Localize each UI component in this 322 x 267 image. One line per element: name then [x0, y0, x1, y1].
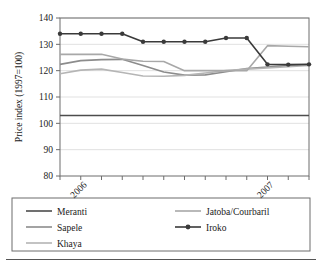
- legend-marker-iroko: [186, 225, 191, 230]
- y-axis-ticks: 8090100110120130140: [39, 13, 60, 181]
- legend-item-iroko[interactable]: Iroko: [175, 223, 227, 233]
- legend-item-meranti[interactable]: Meranti: [26, 207, 87, 217]
- data-point-marker: [79, 32, 83, 36]
- legend-item-sapele[interactable]: Sapele: [26, 223, 82, 233]
- y-tick-label: 100: [39, 119, 54, 129]
- y-tick-label: 110: [39, 92, 53, 102]
- data-point-marker: [99, 32, 103, 36]
- legend-label-sapele: Sapele: [57, 223, 82, 233]
- data-point-marker: [224, 36, 228, 40]
- y-tick-label: 140: [39, 13, 54, 23]
- y-tick-label: 80: [44, 171, 54, 181]
- y-tick-label: 130: [39, 40, 54, 50]
- series-iroko: [58, 32, 311, 67]
- x-tick-label: 2006: [68, 179, 89, 200]
- data-point-marker: [307, 62, 311, 66]
- legend-label-meranti: Meranti: [57, 207, 87, 217]
- x-axis-ticks: [60, 176, 309, 180]
- legend-label-iroko: Iroko: [206, 223, 227, 233]
- data-point-marker: [245, 36, 249, 40]
- footer-divider: [6, 259, 316, 260]
- legend-item-khaya[interactable]: Khaya: [26, 239, 83, 249]
- data-point-marker: [162, 40, 166, 44]
- y-axis-title: Price index (1997=100): [14, 52, 25, 142]
- x-axis-tick-labels: 20062007: [68, 179, 275, 200]
- legend-label-khaya: Khaya: [57, 239, 83, 249]
- legend-item-jatoba-courbaril[interactable]: Jatoba/Courbaril: [175, 207, 270, 217]
- chart-legend: MerantiJatoba/CourbarilSapeleIrokoKhaya: [12, 198, 310, 251]
- chart-figure: 8090100110120130140 Price index (1997=10…: [0, 0, 322, 267]
- data-point-marker: [58, 32, 62, 36]
- data-point-marker: [265, 62, 269, 66]
- price-index-line-chart: 8090100110120130140 Price index (1997=10…: [0, 0, 322, 267]
- plot-gridlines: [60, 18, 309, 150]
- data-point-marker: [203, 40, 207, 44]
- legend-label-jatoba-courbaril: Jatoba/Courbaril: [206, 207, 270, 217]
- data-point-marker: [182, 40, 186, 44]
- data-point-marker: [286, 62, 290, 66]
- y-axis-title-text: Price index (1997=100): [14, 52, 25, 142]
- y-tick-label: 120: [39, 66, 54, 76]
- x-tick-label: 2007: [255, 179, 276, 200]
- data-point-marker: [120, 32, 124, 36]
- data-point-marker: [141, 40, 145, 44]
- y-tick-label: 90: [44, 145, 54, 155]
